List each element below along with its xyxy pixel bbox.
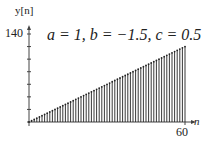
- stem-marker: [54, 109, 56, 111]
- stem-marker: [145, 65, 147, 67]
- y-tick-label-140: 140: [5, 26, 23, 41]
- stem-marker: [101, 86, 103, 88]
- stem-marker: [150, 62, 152, 64]
- stem-marker: [104, 85, 106, 87]
- stem-marker: [127, 73, 129, 75]
- stem-marker: [41, 115, 43, 117]
- stem-marker: [130, 72, 132, 74]
- stem-marker: [33, 119, 35, 121]
- stem-marker: [78, 97, 80, 99]
- stem-marker: [59, 106, 61, 108]
- stem-marker: [158, 58, 160, 60]
- stem-marker: [80, 96, 82, 98]
- stem-marker: [96, 88, 98, 90]
- stem-marker: [161, 57, 163, 59]
- stem-marker: [137, 68, 139, 70]
- stem-plot: [0, 0, 209, 144]
- chart-title: a = 1, b = −1.5, c = 0.5: [47, 26, 201, 44]
- stem-marker: [179, 48, 181, 50]
- stem-marker: [67, 102, 69, 104]
- y-axis-label: y[n]: [15, 4, 33, 16]
- stem-marker: [119, 77, 121, 79]
- stem-marker: [28, 121, 30, 123]
- stem-marker: [143, 66, 145, 68]
- stem-marker: [153, 61, 155, 63]
- stem-marker: [72, 100, 74, 102]
- stem-marker: [85, 93, 87, 95]
- stem-marker: [184, 46, 186, 48]
- stem-marker: [93, 90, 95, 92]
- stem-marker: [124, 75, 126, 77]
- stem-marker: [117, 78, 119, 80]
- stem-marker: [122, 76, 124, 78]
- stem-marker: [98, 87, 100, 89]
- stem-marker: [148, 63, 150, 65]
- x-tick-label-60: 60: [176, 125, 188, 140]
- stem-marker: [49, 111, 51, 113]
- stem-marker: [65, 104, 67, 106]
- stem-marker: [44, 114, 46, 116]
- stem-marker: [36, 117, 38, 119]
- stem-marker: [62, 105, 64, 107]
- stem-marker: [70, 101, 72, 103]
- stem-marker: [31, 120, 33, 122]
- stem-marker: [114, 80, 116, 82]
- stem-marker: [156, 60, 158, 62]
- stem-marker: [88, 92, 90, 94]
- y-axis-arrow: [27, 25, 31, 30]
- stem-marker: [111, 81, 113, 83]
- stem-marker: [39, 116, 41, 118]
- stem-marker: [106, 83, 108, 85]
- stem-marker: [132, 71, 134, 73]
- stem-marker: [83, 95, 85, 97]
- stem-marker: [169, 53, 171, 55]
- stem-marker: [109, 82, 111, 84]
- stem-marker: [135, 70, 137, 72]
- stem-marker: [166, 54, 168, 56]
- x-axis-label: n: [194, 115, 200, 127]
- stem-marker: [91, 91, 93, 93]
- stem-marker: [52, 110, 54, 112]
- stem-marker: [75, 98, 77, 100]
- stem-marker: [174, 51, 176, 53]
- stem-marker: [140, 67, 142, 69]
- stem-marker: [182, 47, 184, 49]
- stem-marker: [176, 49, 178, 51]
- stem-marker: [171, 52, 173, 54]
- stem-marker: [163, 56, 165, 58]
- stem-marker: [57, 107, 59, 109]
- stem-marker: [46, 112, 48, 114]
